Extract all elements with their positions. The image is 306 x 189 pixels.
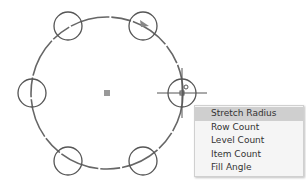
center-grip-icon[interactable] [104, 90, 110, 96]
context-menu: Stretch Radius Row Count Level Count Ite… [194, 105, 304, 177]
array-item-circle[interactable] [129, 147, 157, 175]
array-item-circle[interactable] [54, 12, 82, 40]
menu-item-fill-angle[interactable]: Fill Angle [195, 161, 303, 175]
menu-item-level-count[interactable]: Level Count [195, 134, 303, 148]
menu-item-row-count[interactable]: Row Count [195, 121, 303, 135]
array-item-circle[interactable] [54, 147, 82, 175]
menu-item-stretch-radius[interactable]: Stretch Radius [195, 107, 303, 121]
menu-item-item-count[interactable]: Item Count [195, 148, 303, 162]
grip-arrow-icon[interactable] [140, 20, 149, 27]
